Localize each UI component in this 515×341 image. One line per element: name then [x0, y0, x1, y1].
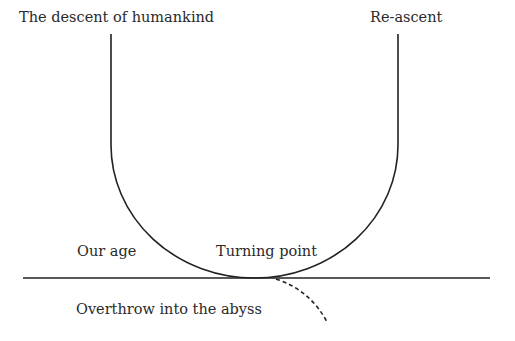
label-turning-point: Turning point [216, 244, 317, 259]
diagram-canvas: The descent of humankind Re-ascent Our a… [0, 0, 515, 341]
diagram-graphic [0, 0, 515, 341]
abyss-dashed-curve [276, 279, 327, 322]
label-re-ascent: Re-ascent [370, 10, 442, 25]
label-our-age: Our age [77, 244, 136, 259]
label-overthrow-into-abyss: Overthrow into the abyss [76, 302, 262, 317]
descent-ascent-curve [111, 34, 398, 278]
label-descent-of-humankind: The descent of humankind [19, 10, 214, 25]
